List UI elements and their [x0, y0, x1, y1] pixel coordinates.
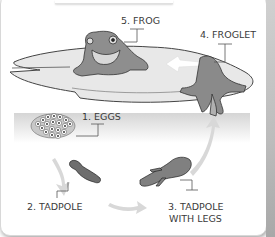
stage-label-tadpole-with-legs-line1: 3. TADPOLE — [168, 201, 223, 212]
tadpole-illustration — [69, 160, 100, 182]
stage-label-frog: 5. FROG — [121, 15, 160, 26]
tadpole-with-legs-illustration — [140, 157, 191, 186]
stage-label-eggs: 1. EGGS — [82, 111, 121, 122]
stage-label-froglet: 4. FROGLET — [200, 29, 256, 40]
eggs-illustration — [31, 113, 75, 138]
stage-label-tadpole: 2. TADPOLE — [27, 201, 82, 212]
stage-label-tadpole-with-legs-line2: WITH LEGS — [169, 213, 222, 224]
